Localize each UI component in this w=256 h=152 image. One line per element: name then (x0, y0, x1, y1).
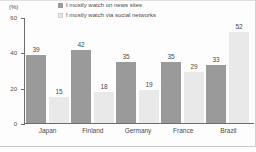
y-axis-tick-label-0: 0 (14, 121, 17, 127)
bar-slot: 42 (71, 18, 91, 123)
bar-value-label: 33 (212, 56, 219, 64)
bar[interactable]: 19 (139, 90, 159, 123)
bar-slot: 18 (94, 18, 114, 123)
bar[interactable]: 29 (184, 72, 204, 123)
bar[interactable]: 15 (49, 97, 69, 123)
bar-slot: 15 (49, 18, 69, 123)
bar-group: 4218 (70, 18, 115, 123)
bar-slot: 35 (116, 18, 136, 123)
x-axis-category-label: Finland (70, 127, 115, 134)
bar-slot: 52 (229, 18, 249, 123)
y-axis-tick-0: 0 (21, 124, 25, 125)
bar-groups: 39154218351935293352 (25, 18, 250, 123)
x-axis-category-labels: JapanFinlandGermanyFranceBrazil (25, 127, 251, 134)
bar[interactable]: 33 (206, 65, 226, 123)
legend-swatch-icon-news-sites (58, 3, 63, 8)
bar-slot: 19 (139, 18, 159, 123)
bar-group: 3519 (115, 18, 160, 123)
bar-value-label: 18 (100, 83, 107, 91)
bar-group: 3352 (205, 18, 250, 123)
x-axis-category-label: Brazil (206, 127, 251, 134)
legend-label-news-sites: I mostly watch on news sites (66, 2, 142, 9)
plot-area: 60 40 20 0 39154218351935293352 (24, 18, 250, 124)
bar[interactable]: 52 (229, 32, 249, 123)
bar-value-label: 15 (55, 88, 62, 96)
bar[interactable]: 35 (116, 62, 136, 123)
x-axis-category-label: Germany (115, 127, 160, 134)
x-axis-line (24, 123, 254, 124)
bar-slot: 35 (161, 18, 181, 123)
bar-value-label: 29 (190, 63, 197, 71)
bar[interactable]: 39 (26, 55, 46, 123)
y-axis-tick-label-20: 20 (10, 86, 17, 92)
bar-slot: 29 (184, 18, 204, 123)
bar-value-label: 39 (32, 46, 39, 54)
bar-value-label: 35 (167, 53, 174, 61)
bar-value-label: 19 (145, 81, 152, 89)
bar-slot: 39 (26, 18, 46, 123)
x-axis-category-label: Japan (25, 127, 70, 134)
x-axis-category-label: France (161, 127, 206, 134)
bar-value-label: 52 (235, 23, 242, 31)
bar[interactable]: 18 (94, 92, 114, 124)
bar-slot: 33 (206, 18, 226, 123)
bar[interactable]: 42 (71, 50, 91, 124)
y-axis-tick-label-60: 60 (10, 15, 17, 21)
bar[interactable]: 35 (161, 62, 181, 123)
bar-value-label: 42 (77, 41, 84, 49)
bar-group: 3529 (160, 18, 205, 123)
frame-right-border (255, 0, 256, 146)
y-axis-tick-label-40: 40 (10, 50, 17, 56)
bar-group: 3915 (25, 18, 70, 123)
legend-item-news-sites: I mostly watch on news sites (58, 1, 156, 10)
bar-chart-figure: I mostly watch on news sites I mostly wa… (0, 0, 256, 152)
bar-value-label: 35 (122, 53, 129, 61)
y-axis-unit-label: (%) (9, 4, 18, 10)
